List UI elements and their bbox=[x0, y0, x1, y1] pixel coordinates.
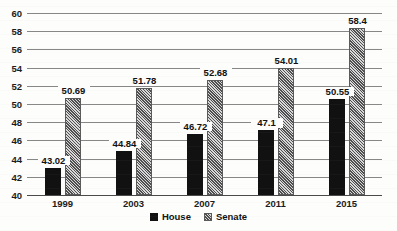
x-tick-label-2007: 2007 bbox=[185, 199, 225, 209]
y-tick-label-60: 60 bbox=[0, 9, 22, 19]
legend-label-house: House bbox=[162, 212, 191, 222]
data-label-senate-2011: 54.01 bbox=[271, 56, 303, 66]
y-axis-tick-labels: 4042444648505254565860 bbox=[0, 13, 22, 195]
data-label-house-2003: 44.84 bbox=[109, 139, 141, 149]
bar-house-2007 bbox=[187, 134, 203, 195]
chart-legend: HouseSenate bbox=[0, 212, 397, 222]
y-tick-label-46: 46 bbox=[0, 136, 22, 146]
data-label-house-2011: 47.1 bbox=[251, 118, 283, 128]
data-label-house-1999: 43.02 bbox=[38, 156, 70, 166]
y-tick-label-48: 48 bbox=[0, 118, 22, 128]
legend-label-senate: Senate bbox=[216, 212, 247, 222]
x-axis-category-labels: 19992003200720112015 bbox=[27, 199, 382, 213]
data-label-senate-2015: 58.4 bbox=[342, 16, 374, 26]
bar-series-container: 43.0250.6944.8451.7846.7252.6847.154.015… bbox=[27, 13, 382, 195]
legend-swatch-senate-icon bbox=[204, 213, 212, 221]
legend-entry-house[interactable]: House bbox=[150, 212, 191, 222]
data-label-senate-2003: 51.78 bbox=[129, 76, 161, 86]
y-tick-label-50: 50 bbox=[0, 100, 22, 110]
data-label-senate-2007: 52.68 bbox=[200, 68, 232, 78]
bar-house-2011 bbox=[258, 130, 274, 195]
bar-senate-1999 bbox=[65, 98, 81, 195]
bar-house-1999 bbox=[45, 168, 61, 195]
chart-figure: 4042444648505254565860 43.0250.6944.8451… bbox=[0, 0, 397, 231]
y-tick-label-52: 52 bbox=[0, 82, 22, 92]
y-tick-label-44: 44 bbox=[0, 155, 22, 165]
legend-swatch-house-icon bbox=[150, 213, 158, 221]
data-label-senate-1999: 50.69 bbox=[58, 86, 90, 96]
bar-house-2015 bbox=[329, 99, 345, 195]
x-tick-label-1999: 1999 bbox=[43, 199, 83, 209]
y-tick-label-40: 40 bbox=[0, 191, 22, 201]
bar-senate-2011 bbox=[278, 68, 294, 195]
y-tick-label-56: 56 bbox=[0, 45, 22, 55]
data-label-house-2015: 50.55 bbox=[322, 87, 354, 97]
gridline-40 bbox=[27, 195, 382, 196]
y-tick-label-58: 58 bbox=[0, 27, 22, 37]
x-tick-label-2015: 2015 bbox=[327, 199, 367, 209]
bar-house-2003 bbox=[116, 151, 132, 195]
y-tick-label-42: 42 bbox=[0, 173, 22, 183]
x-tick-label-2003: 2003 bbox=[114, 199, 154, 209]
bar-senate-2015 bbox=[349, 28, 365, 195]
legend-entry-senate[interactable]: Senate bbox=[204, 212, 247, 222]
x-tick-label-2011: 2011 bbox=[256, 199, 296, 209]
bar-senate-2007 bbox=[207, 80, 223, 195]
plot-area: 43.0250.6944.8451.7846.7252.6847.154.015… bbox=[27, 13, 382, 195]
data-label-house-2007: 46.72 bbox=[180, 122, 212, 132]
y-tick-label-54: 54 bbox=[0, 64, 22, 74]
